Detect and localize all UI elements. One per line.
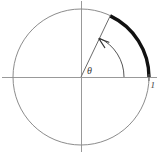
figure-canvas: θ 1 (0, 0, 162, 154)
angle-measure-arc (99, 38, 124, 77)
angle-label-theta: θ (87, 65, 92, 76)
unit-circle-figure: θ 1 (0, 0, 162, 154)
radius-label-one: 1 (151, 80, 156, 90)
highlighted-arc (110, 16, 149, 77)
terminal-side-radius (81, 16, 110, 77)
